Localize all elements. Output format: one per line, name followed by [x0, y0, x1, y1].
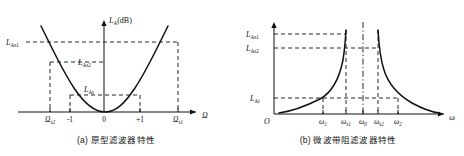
y-axis-arrow — [271, 22, 276, 28]
figure-container: LA(dB) LAs1 LAs2 LAr Ωs2 -1 0 +1 Ωs1 — [0, 0, 464, 156]
y-tick-label-las2: LAs2 — [245, 44, 259, 54]
bandstop-right-branch-curve — [378, 30, 439, 113]
y-tick-label-lar: LAr — [249, 94, 260, 104]
x-tick-label-plus-one: +1 — [136, 115, 144, 124]
x-axis-arrow — [438, 111, 444, 116]
y-tick-label-las1: LAs1 — [245, 30, 259, 40]
x-tick-label-zero: 0 — [102, 115, 106, 124]
panel-a-caption: (a) 原型滤波器特性 — [0, 133, 232, 145]
y-tick-label-las2: LAs2 — [77, 58, 91, 68]
panel-bandstop-filter: LAs1 LAs2 LAr O ω1 ωs1 ω0 ωs2 — [232, 0, 464, 156]
y-tick-label-las1: LAs1 — [5, 38, 19, 48]
x-tick-label-omega-0: ω0 — [359, 117, 367, 127]
x-tick-label-omega-s2: ωs2 — [374, 117, 384, 127]
x-tick-label-omega-2: ω2 — [394, 117, 402, 127]
x-tick-label-minus-one: -1 — [67, 115, 73, 124]
x-tick-label-omega-s2: Ωs2 — [45, 115, 55, 125]
bandstop-left-branch-curve — [279, 30, 346, 113]
x-tick-label-omega-1: ω1 — [319, 117, 327, 127]
x-axis-arrow — [190, 109, 196, 114]
origin-label: O — [264, 117, 270, 126]
x-tick-label-omega-s1: ωs1 — [341, 117, 351, 127]
y-axis-arrow — [101, 20, 106, 26]
panel-b-caption: (b) 微波带阻滤波器特性 — [232, 133, 464, 145]
x-axis-title: ω — [449, 113, 455, 122]
x-tick-label-omega-s1: Ωs1 — [173, 115, 183, 125]
panel-prototype-filter: LA(dB) LAs1 LAs2 LAr Ωs2 -1 0 +1 Ωs1 — [0, 0, 232, 156]
x-axis-title: Ω — [202, 111, 208, 120]
y-tick-label-lar: LAr — [83, 85, 94, 95]
y-axis-title: LA(dB) — [108, 16, 132, 26]
